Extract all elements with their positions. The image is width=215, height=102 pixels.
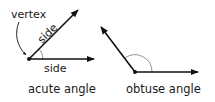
obtuse-angle-figure: obtuse angle xyxy=(101,27,201,96)
acute-angle-arc xyxy=(40,50,44,60)
acute-horizontal-side-label: side xyxy=(44,62,67,75)
vertex-label: vertex xyxy=(11,8,47,21)
acute-angle-caption: acute angle xyxy=(28,82,96,96)
vertex-pointer-arrow xyxy=(17,22,26,55)
obtuse-diagonal-ray xyxy=(101,27,135,72)
obtuse-vertex-dot xyxy=(133,70,137,74)
acute-vertex-dot xyxy=(27,57,31,61)
obtuse-angle-caption: obtuse angle xyxy=(126,82,201,96)
acute-diagonal-side-label: side xyxy=(35,21,60,46)
acute-angle-figure: vertex side side acute angle xyxy=(11,8,96,96)
diagram-svg: vertex side side acute angle obtuse angl… xyxy=(0,0,215,102)
angle-diagram: vertex side side acute angle obtuse angl… xyxy=(0,0,215,102)
